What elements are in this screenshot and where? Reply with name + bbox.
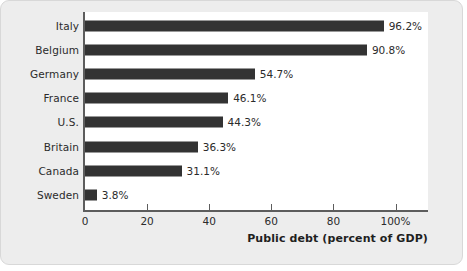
bar-value-label: 36.3% <box>203 141 236 153</box>
category-label: France <box>43 92 79 104</box>
bar-chart-figure: Italy96.2%Belgium90.8%Germany54.7%France… <box>0 0 467 271</box>
category-label: Sweden <box>37 189 79 201</box>
x-tick-label: 40 <box>203 215 216 227</box>
bar-value-label: 96.2% <box>389 20 422 32</box>
bar <box>85 165 182 176</box>
x-tick <box>147 204 148 211</box>
bar-row: U.S.44.3% <box>0 112 467 133</box>
bar-value-label: 54.7% <box>260 68 293 80</box>
category-label: Germany <box>30 68 79 80</box>
bar-value-label: 90.8% <box>372 44 405 56</box>
x-tick-label: 20 <box>140 215 153 227</box>
category-label: Italy <box>56 20 79 32</box>
x-axis-line <box>83 210 428 212</box>
bar <box>85 117 223 128</box>
x-tick-label: 80 <box>327 215 340 227</box>
bar <box>85 93 228 104</box>
bar-value-label: 31.1% <box>187 165 220 177</box>
bar-value-label: 3.8% <box>102 189 129 201</box>
x-tick <box>271 204 272 211</box>
bar-row: Germany54.7% <box>0 63 467 84</box>
bar-row: Belgium90.8% <box>0 39 467 60</box>
bar-row: Canada31.1% <box>0 160 467 181</box>
category-label: Belgium <box>35 44 79 56</box>
x-tick-label: 60 <box>265 215 278 227</box>
category-label: Britain <box>44 141 79 153</box>
x-tick-label: 100% <box>380 215 410 227</box>
x-axis-title: Public debt (percent of GDP) <box>0 232 428 245</box>
bar-value-label: 46.1% <box>233 92 266 104</box>
bar <box>85 189 97 200</box>
bar-row: Britain36.3% <box>0 136 467 157</box>
bar <box>85 44 367 55</box>
bar-row: Sweden3.8% <box>0 184 467 205</box>
bar <box>85 20 384 31</box>
bar <box>85 68 255 79</box>
bar-row: France46.1% <box>0 88 467 109</box>
x-tick <box>333 204 334 211</box>
category-label: Canada <box>38 165 79 177</box>
bar-value-label: 44.3% <box>228 116 261 128</box>
bar <box>85 141 198 152</box>
x-tick-label: 0 <box>82 215 89 227</box>
x-tick <box>209 204 210 211</box>
category-label: U.S. <box>58 116 79 128</box>
bar-row: Italy96.2% <box>0 15 467 36</box>
x-tick <box>396 204 397 211</box>
